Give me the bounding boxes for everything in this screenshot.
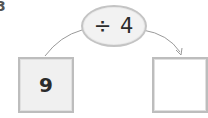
- left-connector-curve: [45, 30, 82, 56]
- input-box: 9: [18, 57, 74, 113]
- answer-box[interactable]: [152, 57, 208, 113]
- arrowhead-icon: [176, 48, 182, 55]
- operation-label: ÷ 4: [94, 14, 135, 38]
- input-value: 9: [39, 73, 53, 97]
- operation-oval: ÷ 4: [81, 5, 147, 47]
- right-arrow-curve: [143, 30, 180, 52]
